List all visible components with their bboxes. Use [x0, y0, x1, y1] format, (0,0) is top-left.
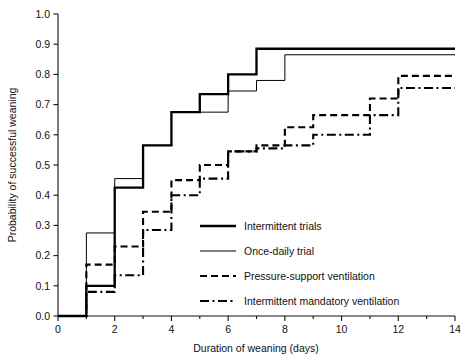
chart-legend: Intermittent trialsOnce-daily trialPress…	[200, 220, 399, 307]
legend-label-intermittent-trials: Intermittent trials	[244, 220, 322, 232]
x-axis-tick-labels: 02468101214	[55, 323, 461, 335]
y-tick-label: 0.3	[35, 219, 50, 231]
legend-label-pressure-support-ventilation: Pressure-support ventilation	[244, 270, 375, 282]
y-tick-label: 0.4	[35, 189, 50, 201]
figure-container: 0.00.10.20.30.40.50.60.70.80.91.0 024681…	[0, 0, 474, 363]
x-tick-label: 2	[112, 323, 118, 335]
y-tick-label: 0.5	[35, 159, 50, 171]
x-tick-label: 8	[282, 323, 288, 335]
kaplan-meier-chart: 0.00.10.20.30.40.50.60.70.80.91.0 024681…	[0, 0, 474, 363]
legend-label-intermittent-mandatory-ventilation: Intermittent mandatory ventilation	[244, 295, 399, 307]
x-tick-label: 6	[225, 323, 231, 335]
y-tick-label: 0.0	[35, 310, 50, 322]
y-tick-label: 0.9	[35, 38, 50, 50]
y-tick-label: 0.8	[35, 68, 50, 80]
y-tick-label: 0.7	[35, 98, 50, 110]
x-axis-title: Duration of weaning (days)	[193, 342, 318, 354]
x-tick-label: 4	[169, 323, 175, 335]
x-tick-label: 10	[336, 323, 348, 335]
y-tick-label: 0.6	[35, 129, 50, 141]
y-tick-label: 1.0	[35, 8, 50, 20]
y-axis-tick-labels: 0.00.10.20.30.40.50.60.70.80.91.0	[35, 8, 50, 322]
y-tick-label: 0.1	[35, 280, 50, 292]
x-tick-label: 0	[55, 323, 61, 335]
x-tick-label: 14	[449, 323, 461, 335]
y-axis-title: Probability of successful weaning	[6, 88, 18, 243]
y-tick-label: 0.2	[35, 249, 50, 261]
legend-label-once-daily-trial: Once-daily trial	[244, 245, 314, 257]
x-tick-label: 12	[392, 323, 404, 335]
y-axis-ticks	[54, 14, 59, 316]
